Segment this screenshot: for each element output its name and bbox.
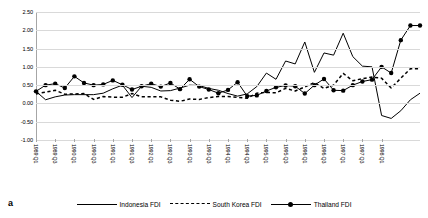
x-tick-mark bbox=[55, 139, 56, 142]
y-tick-label: 0.00 bbox=[23, 100, 34, 106]
chart-legend: Indonesia FDISouth Korea FDIThailand FDI bbox=[0, 196, 428, 212]
gridline bbox=[36, 85, 420, 86]
x-tick-mark bbox=[94, 139, 95, 142]
legend-label: Thailand FDI bbox=[314, 201, 352, 208]
gridlines bbox=[36, 12, 420, 140]
x-tick-label: 1995 Q1 bbox=[263, 144, 269, 163]
y-tick-label: 2.00 bbox=[23, 27, 34, 33]
x-tick-label: 1998 Q1 bbox=[379, 144, 385, 163]
x-tick-label: 1994 Q3 bbox=[244, 144, 250, 163]
x-tick-label: 1992 Q3 bbox=[167, 144, 173, 163]
x-tick-label: 1989 Q3 bbox=[52, 144, 58, 163]
figure-label: a bbox=[8, 198, 13, 208]
x-tick-label: 1995 Q3 bbox=[283, 144, 289, 163]
fdi-line-chart-figure: 2.502.001.501.000.500.00-0.50-1.00 1989 … bbox=[0, 0, 428, 218]
y-tick-label: 1.00 bbox=[23, 64, 34, 70]
gridline bbox=[36, 30, 420, 31]
x-tick-mark bbox=[151, 139, 152, 142]
x-tick-mark bbox=[74, 139, 75, 142]
plot-area bbox=[36, 12, 420, 140]
x-tick-mark bbox=[190, 139, 191, 142]
x-tick-mark bbox=[286, 139, 287, 142]
x-tick-label: 1994 Q1 bbox=[225, 144, 231, 163]
legend-swatch bbox=[77, 200, 117, 208]
x-tick-label: 1993 Q1 bbox=[187, 144, 193, 163]
legend-item[interactable]: South Korea FDI bbox=[170, 200, 262, 208]
x-tick-label: 1997 Q1 bbox=[340, 144, 346, 163]
x-tick-label: 1989 Q1 bbox=[33, 144, 39, 163]
gridline bbox=[36, 122, 420, 123]
gridline bbox=[36, 12, 420, 13]
gridline bbox=[36, 49, 420, 50]
x-tick-mark bbox=[382, 139, 383, 142]
x-tick-mark bbox=[113, 139, 114, 142]
x-tick-label: 1990 Q1 bbox=[71, 144, 77, 163]
legend-marker-circle-icon bbox=[288, 202, 293, 207]
x-tick-mark bbox=[343, 139, 344, 142]
x-tick-label: 1991 Q1 bbox=[110, 144, 116, 163]
x-tick-mark bbox=[170, 139, 171, 142]
x-tick-label: 1991 Q3 bbox=[129, 144, 135, 163]
legend-swatch bbox=[271, 200, 311, 208]
gridline bbox=[36, 67, 420, 68]
y-tick-label: -1.00 bbox=[21, 137, 33, 143]
x-tick-label: 1997 Q3 bbox=[359, 144, 365, 163]
gridline bbox=[36, 103, 420, 104]
legend-label: South Korea FDI bbox=[213, 201, 262, 208]
y-tick-label: 0.50 bbox=[23, 82, 34, 88]
legend-item[interactable]: Thailand FDI bbox=[271, 200, 352, 208]
x-tick-mark bbox=[324, 139, 325, 142]
x-tick-label: 1990 Q3 bbox=[91, 144, 97, 163]
x-tick-mark bbox=[362, 139, 363, 142]
y-tick-label: -0.50 bbox=[21, 119, 33, 125]
x-axis-tick-labels: 1989 Q11989 Q31990 Q11990 Q31991 Q11991 … bbox=[36, 142, 420, 194]
x-tick-mark bbox=[209, 139, 210, 142]
x-tick-mark bbox=[36, 139, 37, 142]
legend-swatch bbox=[170, 200, 210, 208]
x-tick-mark bbox=[228, 139, 229, 142]
x-tick-label: 1993 Q3 bbox=[206, 144, 212, 163]
x-tick-mark bbox=[305, 139, 306, 142]
x-tick-label: 1996 Q3 bbox=[321, 144, 327, 163]
y-tick-label: 2.50 bbox=[23, 9, 34, 15]
legend-item[interactable]: Indonesia FDI bbox=[77, 200, 161, 208]
y-axis-tick-labels: 2.502.001.501.000.500.00-0.50-1.00 bbox=[0, 12, 33, 140]
x-tick-mark bbox=[247, 139, 248, 142]
y-tick-label: 1.50 bbox=[23, 46, 34, 52]
x-tick-label: 1996 Q1 bbox=[302, 144, 308, 163]
x-tick-label: 1992 Q1 bbox=[148, 144, 154, 163]
legend-label: Indonesia FDI bbox=[120, 201, 161, 208]
x-tick-mark bbox=[132, 139, 133, 142]
x-tick-mark bbox=[266, 139, 267, 142]
